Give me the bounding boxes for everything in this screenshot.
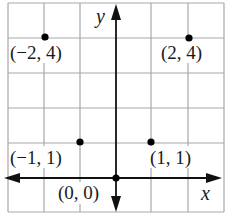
label-origin: (0, 0) bbox=[58, 182, 99, 204]
label-neg2-4: (−2, 4) bbox=[10, 42, 62, 64]
point-origin bbox=[112, 174, 119, 181]
point-1-1 bbox=[147, 138, 154, 145]
point-neg1-1 bbox=[76, 138, 83, 145]
graph-svg: (−2, 4) (2, 4) (−1, 1) (1, 1) (0, 0) y x bbox=[0, 0, 230, 215]
coordinate-plane: (−2, 4) (2, 4) (−1, 1) (1, 1) (0, 0) y x bbox=[0, 0, 230, 215]
x-axis-arrow-left-icon bbox=[4, 173, 20, 183]
point-neg2-4 bbox=[41, 33, 48, 40]
y-axis-label: y bbox=[94, 5, 105, 28]
y-axis-arrow-up-icon bbox=[111, 4, 121, 20]
label-1-1: (1, 1) bbox=[150, 147, 191, 169]
point-2-4 bbox=[185, 34, 192, 41]
label-2-4: (2, 4) bbox=[161, 42, 202, 64]
label-neg1-1: (−1, 1) bbox=[10, 147, 62, 169]
y-axis-arrow-down-icon bbox=[111, 196, 121, 212]
x-axis-label: x bbox=[200, 182, 210, 204]
